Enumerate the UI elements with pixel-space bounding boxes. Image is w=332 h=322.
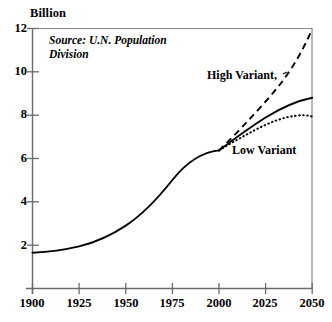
high-variant-leader xyxy=(283,72,287,74)
high-variant-label: High Variant, xyxy=(207,68,277,83)
y-tick-label-4: 4 xyxy=(5,194,27,209)
x-tick-label-1950: 1950 xyxy=(103,296,149,311)
x-tick-label-1975: 1975 xyxy=(149,296,195,311)
population-projection-chart: Billion 12 10 8 6 4 2 1900 1925 1950 197… xyxy=(0,0,332,322)
x-tick-label-1900: 1900 xyxy=(9,296,55,311)
source-note: Source: U.N. Population Division xyxy=(49,34,167,61)
y-tick-label-8: 8 xyxy=(5,107,27,122)
historical-curve xyxy=(33,150,220,252)
source-note-line-2: Division xyxy=(49,48,167,62)
y-tick-label-10: 10 xyxy=(5,64,27,79)
y-axis-title: Billion xyxy=(30,6,66,21)
x-tick-label-2050: 2050 xyxy=(289,296,332,311)
x-tick-label-1925: 1925 xyxy=(56,296,102,311)
high-variant-curve xyxy=(219,29,312,150)
x-tick-label-2000: 2000 xyxy=(196,296,242,311)
y-tick-label-2: 2 xyxy=(5,238,27,253)
y-tick-label-12: 12 xyxy=(5,21,27,36)
series-line-solid xyxy=(33,150,220,253)
x-tick-label-2025: 2025 xyxy=(242,296,288,311)
y-tick-label-6: 6 xyxy=(5,151,27,166)
source-note-line-1: Source: U.N. Population xyxy=(49,34,167,48)
series-line-medium-variant xyxy=(33,149,220,253)
low-variant-label: Low Variant xyxy=(232,143,296,158)
